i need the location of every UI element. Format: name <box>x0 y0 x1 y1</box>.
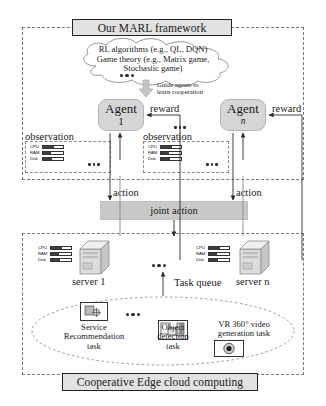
agent-n-action-label: action <box>236 187 262 198</box>
meter-label-disk: Disk <box>30 156 41 161</box>
meter-fill-cpu <box>161 146 172 148</box>
meter-track-cpu <box>160 145 182 149</box>
agent-1-box[interactable]: Agent 1 <box>98 99 144 131</box>
joint-action-label: joint action <box>150 205 198 216</box>
task-queue-label: Task queue <box>174 277 221 288</box>
guide-arrow <box>139 80 153 97</box>
meter-row-ram: RAM <box>30 150 64 155</box>
meter-track-disk <box>42 157 64 161</box>
agent-1-name: Agent <box>105 103 137 115</box>
agent-n-index: n <box>241 115 246 127</box>
observation-1-ellipsis <box>88 163 100 166</box>
header-title-plate: Our MARL framework <box>72 19 232 36</box>
meter-track-disk <box>50 258 72 262</box>
meter-fill-disk <box>43 158 52 160</box>
meter-row-ram: RAM <box>196 251 230 256</box>
meter-row-disk: Disk <box>30 156 64 161</box>
meter-row-disk: Disk <box>38 257 72 262</box>
meter-fill-ram <box>209 253 217 255</box>
meter-label-cpu: CPU <box>30 144 41 149</box>
meter-track-disk <box>208 258 230 262</box>
meter-row-cpu: CPU <box>196 245 230 250</box>
task-3-caption-line-2: generation task <box>198 329 290 338</box>
meter-track-cpu <box>42 145 64 149</box>
agent-1-index: 1 <box>118 115 124 127</box>
meter-track-cpu <box>50 246 72 250</box>
meter-track-ram <box>160 151 182 155</box>
meter-row-disk: Disk <box>196 257 230 262</box>
meter-track-ram <box>50 252 72 256</box>
service-recommendation-icon <box>80 302 108 321</box>
footer-title: Cooperative Edge cloud computing <box>77 376 243 388</box>
task-2-caption-line-3: task <box>146 342 200 351</box>
vr-video-caption: VR 360° video generation task <box>198 320 290 339</box>
meter-fill-ram <box>161 152 169 154</box>
meter-fill-cpu <box>209 247 220 249</box>
service-recommendation-caption: Service Recommendation task <box>42 323 146 351</box>
meter-row-cpu: CPU <box>38 245 72 250</box>
meter-track-ram <box>42 151 64 155</box>
meter-row-disk: Disk <box>148 156 182 161</box>
meter-fill-disk <box>51 259 60 261</box>
meter-label-ram: RAM <box>30 150 41 155</box>
agent-n-name: Agent <box>227 103 259 115</box>
meter-label-ram: RAM <box>148 150 159 155</box>
server-1-label: server 1 <box>72 276 106 287</box>
meter-label-disk: Disk <box>196 257 207 262</box>
meter-label-ram: RAM <box>38 251 49 256</box>
observation-n-ellipsis <box>206 163 218 166</box>
page-title: Our MARL framework <box>98 22 207 34</box>
server-n-meters: CPU RAM Disk <box>196 245 230 262</box>
agent-n-reward-label: reward <box>272 103 301 114</box>
agent-n-box[interactable]: Agent n <box>220 99 266 131</box>
observation-1-meters: CPU RAM Disk <box>30 144 64 161</box>
meter-track-ram <box>208 252 230 256</box>
meter-label-cpu: CPU <box>196 245 207 250</box>
footer-title-plate: Cooperative Edge cloud computing <box>62 373 258 391</box>
meter-track-disk <box>160 157 182 161</box>
observation-n-meters: CPU RAM Disk <box>148 144 182 161</box>
meter-label-ram: RAM <box>196 251 207 256</box>
vr-video-icon <box>214 340 244 357</box>
server-n-icon <box>240 241 270 275</box>
joint-action-bar: joint action <box>100 201 248 220</box>
diagram-canvas: Our MARL framework RL algorithms (e.g., … <box>0 0 326 406</box>
agents-ellipsis <box>174 126 186 129</box>
server-1-meters: CPU RAM Disk <box>38 245 72 262</box>
meter-fill-cpu <box>43 146 54 148</box>
guide-line-2: learn cooperation <box>157 88 203 95</box>
agent-1-reward-label: reward <box>150 103 179 114</box>
meter-label-disk: Disk <box>38 257 49 262</box>
meter-fill-disk <box>161 158 170 160</box>
meter-row-ram: RAM <box>148 150 182 155</box>
guide-line-1: Guide agents to <box>157 81 203 88</box>
task-1-caption-line-3: task <box>42 342 146 351</box>
meter-label-cpu: CPU <box>148 144 159 149</box>
tasks-ellipsis <box>126 313 140 316</box>
object-detection-caption: Object detection task <box>146 323 200 351</box>
guide-caption: Guide agents to learn cooperation <box>157 81 203 96</box>
agent-1-action-label: action <box>113 187 139 198</box>
servers-ellipsis <box>152 264 166 267</box>
meter-fill-cpu <box>51 247 62 249</box>
meter-row-cpu: CPU <box>30 144 64 149</box>
meter-track-cpu <box>208 246 230 250</box>
meter-row-cpu: CPU <box>148 144 182 149</box>
meter-row-ram: RAM <box>38 251 72 256</box>
meter-label-disk: Disk <box>148 156 159 161</box>
meter-fill-ram <box>51 253 59 255</box>
meter-fill-disk <box>209 259 218 261</box>
server-1-icon <box>80 241 110 275</box>
meter-label-cpu: CPU <box>38 245 49 250</box>
server-n-label: server n <box>236 276 270 287</box>
meter-fill-ram <box>43 152 51 154</box>
